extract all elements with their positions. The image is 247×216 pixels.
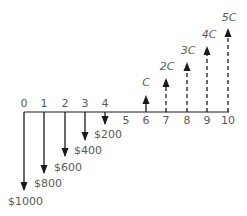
period-label-9: 9 [204,114,211,127]
outflow-arrow-3 [82,112,89,141]
inflow-arrow-6 [143,95,150,112]
period-label-0: 0 [21,97,28,110]
inflow-arrow-9 [204,46,211,112]
inflow-label-6: C [142,76,150,89]
inflow-label-8: 3C [181,44,196,57]
inflow-arrow-7 [163,78,170,112]
cash-flow-svg: 0 1 2 3 4 5 6 7 8 9 10 $1000 $800 $600 $… [0,0,247,216]
inflow-label-9: 4C [202,28,217,41]
period-label-3: 3 [82,97,89,110]
period-label-4: 4 [102,97,109,110]
cash-flow-diagram: 0 1 2 3 4 5 6 7 8 9 10 $1000 $800 $600 $… [0,0,247,216]
period-label-6: 6 [143,114,150,127]
period-label-10: 10 [221,114,235,127]
outflow-arrow-1 [41,112,48,174]
period-label-7: 7 [163,114,170,127]
inflow-label-7: 2C [160,60,175,73]
period-label-8: 8 [184,114,191,127]
inflow-label-10: 5C [222,11,237,24]
outflow-label-0: $1000 [8,195,43,208]
inflow-arrow-10 [225,28,232,112]
inflow-arrow-8 [184,62,191,112]
outflow-label-2: $600 [54,161,82,174]
outflow-label-3: $400 [74,144,102,157]
period-label-2: 2 [62,97,69,110]
outflow-arrow-0 [21,112,28,191]
period-label-5: 5 [123,114,130,127]
outflow-arrow-2 [62,112,69,157]
period-label-1: 1 [41,97,48,110]
outflow-label-4: $200 [94,128,122,141]
outflow-label-1: $800 [34,177,62,190]
outflow-arrow-4 [102,112,109,125]
